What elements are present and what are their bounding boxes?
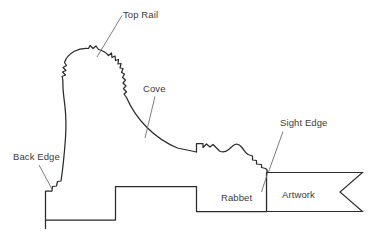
- leader-line-top-rail: [97, 16, 122, 58]
- leader-line-sight-edge: [269, 132, 284, 173]
- label-artwork: Artwork: [282, 189, 315, 200]
- label-back-edge: Back Edge: [13, 151, 60, 162]
- diagram-canvas: Top Rail Cove Sight Edge Back Edge Rabbe…: [0, 0, 371, 240]
- label-sight-edge: Sight Edge: [280, 117, 327, 128]
- label-rabbet: Rabbet: [221, 192, 252, 203]
- leader-line-back-edge: [39, 165, 53, 190]
- label-top-rail: Top Rail: [123, 9, 158, 20]
- label-cove: Cove: [143, 83, 166, 94]
